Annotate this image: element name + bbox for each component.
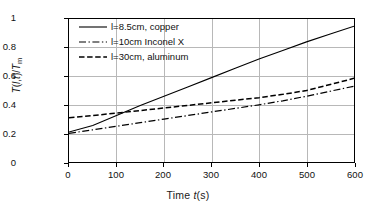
legend-item-copper: l=8.5cm, copper [78, 20, 188, 33]
legend-label: l=10cm Inconel X [111, 36, 184, 47]
dashed-line-key [78, 52, 108, 62]
x-tick-label: 600 [335, 170, 375, 180]
chart-legend: l=8.5cm, copper l=10cm Inconel X l=30cm,… [78, 20, 188, 63]
x-axis-title-suffix: (s) [197, 189, 210, 201]
x-tick-mark [259, 163, 260, 167]
x-tick-mark [307, 163, 308, 167]
x-tick-label: 0 [48, 170, 88, 180]
x-tick-mark [116, 163, 117, 167]
x-tick-mark [211, 163, 212, 167]
legend-label: l=8.5cm, copper [111, 21, 179, 32]
y-title-comma: , [11, 79, 22, 82]
y-title-paren-close: )/ [11, 70, 22, 76]
x-axis-title-prefix: Time [167, 189, 194, 201]
x-tick-label: 500 [287, 170, 327, 180]
x-tick-label: 300 [191, 170, 231, 180]
y-tick-label: 0 [0, 158, 16, 168]
y-title-paren-open: ( [11, 84, 22, 87]
x-tick-label: 400 [239, 170, 279, 180]
dash-dot-line-key [78, 37, 108, 47]
x-tick-label: 200 [143, 170, 183, 180]
y-title-t: t [11, 76, 22, 79]
y-axis-title: T(l,t)/Tm [11, 16, 22, 136]
y-title-Tm: T [11, 64, 22, 70]
y-title-sub-m: m [15, 58, 24, 64]
legend-label: l=30cm, aluminum [111, 51, 188, 62]
y-title-T: T [11, 87, 22, 93]
chart-figure: 1 0.8 0.6 0.4 0.2 0 0 100 200 300 400 50… [0, 0, 376, 211]
legend-item-aluminum: l=30cm, aluminum [78, 50, 188, 63]
x-tick-mark [68, 163, 69, 167]
series-line [69, 86, 354, 133]
x-tick-label: 100 [96, 170, 136, 180]
x-tick-mark [163, 163, 164, 167]
x-tick-mark [355, 163, 356, 167]
x-axis-title: Time t(s) [0, 189, 376, 201]
y-title-l: l [11, 82, 22, 84]
legend-item-inconel: l=10cm Inconel X [78, 35, 188, 48]
solid-line-key [78, 22, 108, 32]
